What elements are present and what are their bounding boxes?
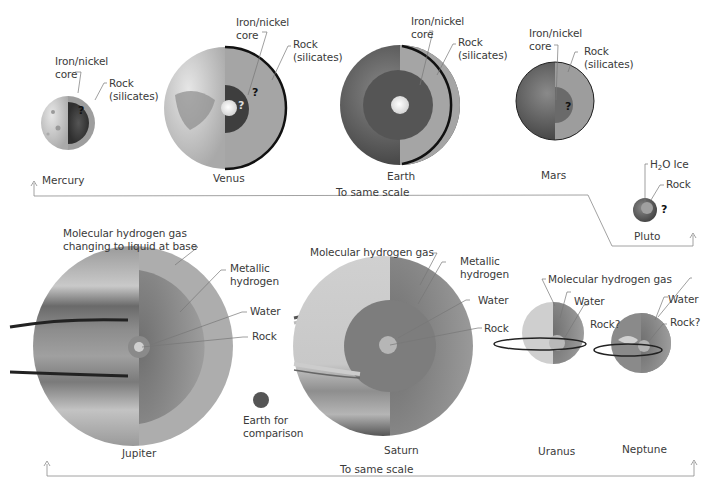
earth-core-label: Iron/nickel [411, 15, 464, 28]
mars-rock-label: Rock [584, 45, 609, 58]
ice-giants-gas-label: Molecular hydrogen gas [548, 273, 672, 286]
jupiter-gas-label-2: changing to liquid at base [63, 240, 197, 253]
planet-interiors-diagram: Iron/nickel core Rock (silicates) ? Merc… [0, 0, 711, 485]
venus-unknown-mark: ? [252, 87, 258, 99]
earth-rock-label-2: (silicates) [458, 49, 508, 62]
saturn-rock-label: Rock [484, 322, 509, 335]
pluto-name: Pluto [634, 230, 660, 243]
pluto-ice-label: H2O Ice [650, 158, 689, 171]
mercury-core-label: Iron/nickel [55, 55, 108, 68]
pluto-unknown-mark: ? [661, 204, 667, 216]
jupiter-water-label: Water [250, 305, 281, 318]
jupiter-metallic-label: Metallic [230, 262, 270, 275]
neptune-name: Neptune [622, 443, 667, 456]
pluto-rock-label: Rock [666, 178, 691, 191]
uranus-water-label: Water [574, 295, 605, 308]
mars-core-label: Iron/nickel [529, 27, 582, 40]
uranus-name: Uranus [538, 445, 575, 458]
venus-core-label-2: core [236, 29, 258, 42]
jupiter-metallic-label-2: hydrogen [230, 275, 279, 288]
saturn-name: Saturn [384, 444, 419, 457]
earth-comparison-label-2: comparison [243, 427, 303, 440]
saturn-cutaway [290, 256, 480, 436]
uranus-rock-label: Rock? [590, 318, 620, 331]
earth-core-label-2: core [411, 28, 433, 41]
earth-rock-label: Rock [458, 36, 483, 49]
venus-name: Venus [213, 172, 245, 185]
jupiter-rock-label: Rock [252, 330, 277, 343]
venus-core-label: Iron/nickel [236, 16, 289, 29]
saturn-metallic-label-2: hydrogen [460, 268, 509, 281]
top-scale-label: To same scale [336, 186, 409, 199]
mars-unknown-mark: ? [565, 101, 571, 113]
earth-comparison-dot [253, 392, 269, 408]
saturn-gas-label: Molecular hydrogen gas [310, 246, 434, 259]
jupiter-gas-label: Molecular hydrogen gas [63, 227, 187, 240]
jupiter-name: Jupiter [122, 447, 156, 460]
bottom-scale-label: To same scale [340, 463, 413, 476]
mars-cutaway [516, 62, 594, 140]
mercury-cutaway [41, 96, 95, 150]
mars-rock-label-2: (silicates) [584, 58, 634, 71]
mars-name: Mars [541, 169, 566, 182]
neptune-rock-label: Rock? [670, 316, 700, 329]
earth-cutaway [340, 45, 460, 165]
venus-cutaway [164, 47, 286, 169]
venus-rock-label: Rock [293, 38, 318, 51]
mercury-rock-label-2: (silicates) [109, 90, 159, 103]
neptune-water-label: Water [668, 293, 699, 306]
earth-name: Earth [387, 170, 415, 183]
saturn-water-label: Water [478, 294, 509, 307]
mercury-unknown-mark: ? [78, 105, 84, 117]
mercury-core-label-2: core [55, 68, 77, 81]
venus-unknown-mark-2: ? [238, 100, 244, 112]
venus-rock-label-2: (silicates) [293, 51, 343, 64]
saturn-metallic-label: Metallic [460, 255, 500, 268]
mars-core-label-2: core [529, 40, 551, 53]
mercury-rock-label: Rock [109, 77, 134, 90]
jupiter-cutaway [10, 246, 239, 446]
mercury-name: Mercury [42, 174, 85, 187]
earth-comparison-label: Earth for [243, 414, 288, 427]
